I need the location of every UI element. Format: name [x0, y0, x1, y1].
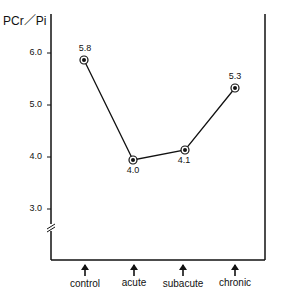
data-point-control — [80, 56, 88, 64]
arrow-up-icon — [81, 264, 89, 276]
x-category-label: subacute — [153, 278, 213, 289]
axis-break-icon — [47, 224, 55, 232]
data-line — [84, 60, 235, 160]
y-tick-label: 3.0 — [12, 203, 42, 213]
data-point-acute — [129, 156, 137, 164]
data-label: 5.8 — [73, 43, 97, 53]
y-tick-label: 4.0 — [12, 151, 42, 161]
data-label: 5.3 — [223, 71, 247, 81]
y-tick-label: 5.0 — [12, 99, 42, 109]
arrow-up-icon — [179, 264, 187, 276]
data-label: 4.0 — [121, 165, 145, 175]
data-point-chronic — [231, 84, 239, 92]
x-category-label: chronic — [205, 277, 265, 288]
data-label: 4.1 — [172, 155, 196, 165]
data-point-subacute — [181, 146, 189, 154]
arrow-up-icon — [130, 264, 138, 276]
y-tick-label: 6.0 — [12, 47, 42, 57]
arrow-up-icon — [231, 264, 239, 276]
line-chart — [0, 0, 281, 294]
y-axis-label: PCr／Pi — [3, 11, 46, 28]
